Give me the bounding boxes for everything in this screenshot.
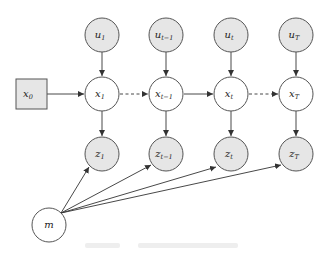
node-x-1: x1 — [85, 77, 119, 111]
node-u-t: ut — [214, 18, 248, 52]
edges-x-to-z — [102, 111, 296, 136]
edges-m-to-z — [61, 165, 281, 213]
edges-u-to-x — [102, 52, 296, 76]
caption-placeholder — [85, 243, 120, 248]
node-x-t: xt — [214, 77, 248, 111]
node-u-1: u1 — [85, 18, 119, 52]
node-z-1: z1 — [85, 137, 119, 171]
graphical-model-diagram: x0 u1 ut−1 ut uT x1 xt−1 xt xT z1 zt−1 — [0, 0, 329, 256]
node-m: m — [32, 208, 66, 242]
node-u-T: uT — [279, 18, 313, 52]
node-z-T: zT — [279, 137, 313, 171]
node-u-t-minus-1: ut−1 — [149, 18, 183, 52]
node-z-t-minus-1: zt−1 — [149, 137, 183, 171]
node-z-t: zt — [214, 137, 248, 171]
caption-placeholder — [138, 243, 238, 248]
node-x-T: xT — [279, 77, 313, 111]
svg-text:m: m — [44, 219, 53, 230]
node-x0: x0 — [16, 79, 47, 109]
node-x-t-minus-1: xt−1 — [149, 77, 183, 111]
